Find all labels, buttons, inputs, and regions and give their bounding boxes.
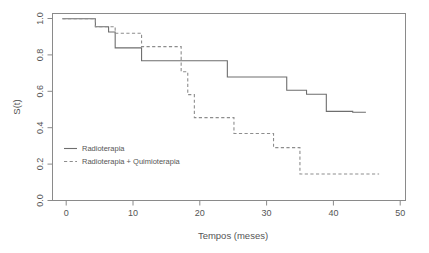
- y-axis-ticks: [48, 19, 53, 201]
- y-tick-label: 0.2: [35, 158, 45, 171]
- survival-plot-figure: 1.0 0.8 0.6 0.4 0.2 0.0 S(t) 0 10 20 30 …: [0, 0, 429, 253]
- x-axis-tick-labels: 0 10 20 30 40 50: [64, 208, 406, 218]
- x-tick-label: 50: [395, 208, 405, 218]
- x-tick-label: 10: [128, 208, 138, 218]
- y-tick-label: 0.4: [35, 121, 45, 134]
- y-tick-label: 1.0: [35, 12, 45, 25]
- y-axis-tick-labels: 1.0 0.8 0.6 0.4 0.2 0.0: [35, 12, 45, 207]
- x-axis-ticks: [66, 201, 400, 206]
- y-tick-label: 0.6: [35, 85, 45, 98]
- x-axis-title: Tempos (meses): [198, 230, 268, 241]
- y-tick-label: 0.8: [35, 49, 45, 62]
- x-tick-label: 0: [64, 208, 69, 218]
- y-axis-title: S(t): [11, 99, 22, 114]
- legend-label-radioterapia: Radioterapia: [82, 144, 125, 153]
- x-tick-label: 30: [262, 208, 272, 218]
- plot-frame: [53, 14, 406, 201]
- chart-legend: Radioterapia Radioterapia + Quimioterapi…: [64, 144, 181, 166]
- x-tick-label: 20: [195, 208, 205, 218]
- series-line-radioterapia: [62, 19, 366, 113]
- y-tick-label: 0.0: [35, 194, 45, 207]
- kaplan-meier-chart: 1.0 0.8 0.6 0.4 0.2 0.0 S(t) 0 10 20 30 …: [0, 0, 429, 253]
- legend-label-radioterapia-quimioterapia: Radioterapia + Quimioterapia: [82, 157, 181, 166]
- x-tick-label: 40: [328, 208, 338, 218]
